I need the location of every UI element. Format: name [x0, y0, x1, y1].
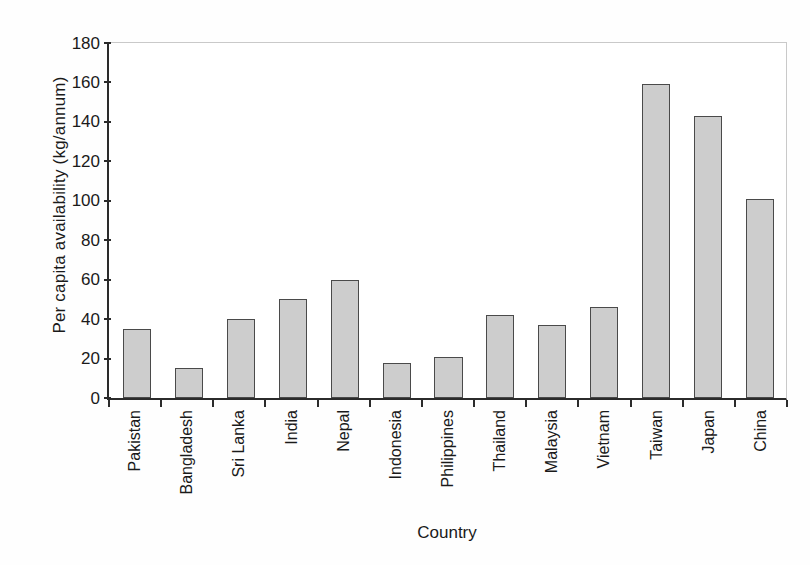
x-axis-tick-mark — [526, 400, 578, 407]
x-axis-tick-label: Sri Lanka — [231, 410, 247, 478]
x-axis-tick-label: Bangladesh — [179, 410, 195, 495]
x-axis-label-cell: Vietnam — [578, 410, 630, 515]
bar-malaysia — [538, 325, 566, 398]
bar-sri-lanka — [227, 319, 255, 398]
bar-slot — [682, 43, 734, 398]
y-axis-tick-label: 120 — [72, 153, 104, 170]
bar-slot — [371, 43, 423, 398]
x-axis-tick-label: Philippines — [440, 410, 456, 487]
x-axis-label-cell: India — [265, 410, 317, 515]
bar-slot — [423, 43, 475, 398]
x-axis-tick-label: Vietnam — [596, 410, 612, 468]
x-axis-label-cell: Taiwan — [631, 410, 683, 515]
y-axis-tick-mark — [104, 358, 111, 360]
bar-philippines — [434, 357, 462, 398]
y-axis-tick-label: 180 — [72, 35, 104, 52]
bar-slot — [319, 43, 371, 398]
bar-slot — [267, 43, 319, 398]
bar-vietnam — [590, 307, 618, 398]
bar-slot — [474, 43, 526, 398]
bar-indonesia — [383, 363, 411, 399]
y-axis-title: Per capita availability (kg/annum) — [50, 5, 70, 405]
y-axis-tick-label: 160 — [72, 74, 104, 91]
y-axis-tick-label: 40 — [81, 311, 104, 328]
x-axis-tick-mark — [265, 400, 317, 407]
bar-slot — [215, 43, 267, 398]
x-axis-tick-mark — [474, 400, 526, 407]
y-axis-tick-mark — [104, 397, 111, 399]
x-axis-tick-mark — [631, 400, 683, 407]
x-axis-tick-mark — [683, 400, 735, 407]
x-axis-tick-label: Pakistan — [127, 410, 143, 471]
x-axis-tick-mark — [370, 400, 422, 407]
x-axis-tick-label: Nepal — [336, 410, 352, 452]
bar-bangladesh — [175, 368, 203, 398]
x-axis-tick-mark — [735, 400, 787, 407]
x-axis-tick-mark — [578, 400, 630, 407]
bar-slot — [163, 43, 215, 398]
x-axis-tick-label: Malaysia — [544, 410, 560, 473]
bar-pakistan — [123, 329, 151, 398]
bar-slot — [526, 43, 578, 398]
bar-slot — [111, 43, 163, 398]
x-axis-label-cell: Thailand — [474, 410, 526, 515]
bar-japan — [694, 116, 722, 398]
x-axis-label-cell: Indonesia — [370, 410, 422, 515]
x-axis-label-cell: Bangladesh — [161, 410, 213, 515]
x-axis-tick-mark — [109, 400, 161, 407]
x-axis-label-cell: Pakistan — [109, 410, 161, 515]
x-axis-label-cell: Philippines — [422, 410, 474, 515]
x-axis-label-cell: Sri Lanka — [213, 410, 265, 515]
y-axis-tick-mark — [104, 160, 111, 162]
bar-slot — [578, 43, 630, 398]
x-axis-tick-mark — [213, 400, 265, 407]
x-axis-tick-label: Thailand — [492, 410, 508, 471]
y-axis-tick-label: 60 — [81, 271, 104, 288]
y-axis-tick-mark — [104, 81, 111, 83]
x-axis-label-cell: Japan — [683, 410, 735, 515]
y-axis-tick-mark — [104, 239, 111, 241]
x-axis-ticks — [109, 400, 787, 407]
x-axis-tick-labels: PakistanBangladeshSri LankaIndiaNepalInd… — [109, 410, 787, 515]
y-axis-tick-label: 140 — [72, 113, 104, 130]
y-axis-tick-mark — [104, 42, 111, 44]
x-axis-tick-label: China — [753, 410, 769, 452]
x-axis-tick-label: Japan — [701, 410, 717, 454]
plot-area: 020406080100120140160180 — [107, 42, 787, 400]
x-axis-tick-label: Indonesia — [388, 410, 404, 479]
y-axis-tick-mark — [104, 279, 111, 281]
y-axis-tick-label: 80 — [81, 232, 104, 249]
bar-slot — [630, 43, 682, 398]
x-axis-tick-mark — [318, 400, 370, 407]
x-axis-tick-label: Taiwan — [649, 410, 665, 460]
bar-china — [746, 199, 774, 398]
x-axis-label-cell: Nepal — [318, 410, 370, 515]
bar-taiwan — [642, 84, 670, 398]
y-axis-tick-label: 20 — [81, 350, 104, 367]
bar-thailand — [486, 315, 514, 398]
y-axis-tick-mark — [104, 318, 111, 320]
x-axis-label-cell: Malaysia — [526, 410, 578, 515]
x-axis-label-cell: China — [735, 410, 787, 515]
bar-india — [279, 299, 307, 398]
y-axis-tick-label: 0 — [91, 390, 104, 407]
bar-series — [111, 43, 786, 398]
y-axis-tick-mark — [104, 121, 111, 123]
y-axis-tick-label: 100 — [72, 192, 104, 209]
x-axis-title: Country — [107, 523, 787, 543]
bar-nepal — [331, 280, 359, 398]
x-axis-tick-mark — [161, 400, 213, 407]
x-axis-tick-mark — [422, 400, 474, 407]
bar-slot — [734, 43, 786, 398]
y-axis-tick-mark — [104, 200, 111, 202]
bar-chart-figure: Per capita availability (kg/annum) 02040… — [0, 0, 810, 565]
x-axis-tick-label: India — [284, 410, 300, 445]
